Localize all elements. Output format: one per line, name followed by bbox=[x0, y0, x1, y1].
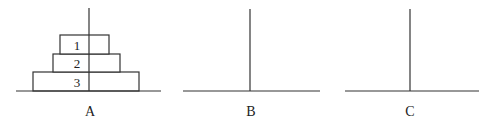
rod-c: C bbox=[345, 9, 479, 119]
disk-1-label: 1 bbox=[74, 38, 81, 53]
disk-3-label: 3 bbox=[74, 75, 81, 90]
disk-3: 3 bbox=[33, 72, 139, 91]
rod-b: B bbox=[183, 9, 320, 119]
rod-b-label: B bbox=[246, 104, 255, 119]
disk-1: 1 bbox=[60, 35, 109, 54]
tower-of-hanoi-diagram: 3 2 1 A B C bbox=[0, 0, 491, 121]
rod-c-label: C bbox=[405, 104, 414, 119]
disk-2: 2 bbox=[53, 54, 120, 72]
rod-a-label: A bbox=[85, 104, 96, 119]
rod-a: A bbox=[16, 8, 161, 119]
disk-2-label: 2 bbox=[74, 56, 81, 71]
